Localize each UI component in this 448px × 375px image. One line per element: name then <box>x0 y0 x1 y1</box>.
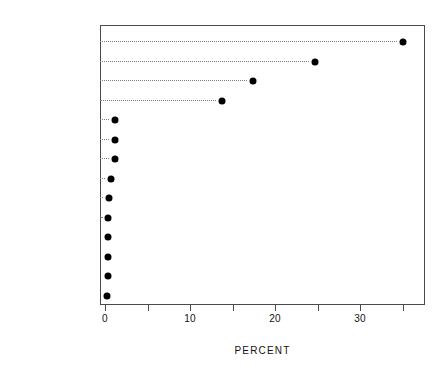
x-tick-label-0: 0 <box>102 313 108 324</box>
leader-line <box>100 119 109 121</box>
data-point-marker <box>104 253 111 260</box>
data-point-marker <box>105 214 112 221</box>
leader-line <box>100 217 102 219</box>
x-tick-label-30: 30 <box>354 313 366 324</box>
x-tick-major-0 <box>105 305 106 311</box>
leader-line <box>100 61 309 63</box>
leader-line <box>100 80 247 82</box>
x-tick-major-30 <box>360 305 361 311</box>
leader-line <box>100 158 109 160</box>
x-tick-label-20: 20 <box>269 313 281 324</box>
data-point-marker <box>104 292 111 299</box>
leader-line <box>100 100 216 102</box>
x-tick-minor-15 <box>233 305 234 311</box>
chart-figure: OXYGENIRONSILICONMAGNESIUMALUMINUMNICKEL… <box>0 0 448 375</box>
data-point-marker <box>219 97 226 104</box>
x-tick-label-10: 10 <box>184 313 196 324</box>
data-point-marker <box>112 136 119 143</box>
leader-line <box>100 178 105 180</box>
data-point-marker <box>112 156 119 163</box>
data-point-marker <box>105 195 112 202</box>
x-tick-major-20 <box>275 305 276 311</box>
leader-line <box>100 197 103 199</box>
x-axis-title: PERCENT <box>100 345 425 356</box>
data-point-marker <box>400 39 407 46</box>
x-tick-minor-25 <box>318 305 319 311</box>
x-tick-minor-5 <box>148 305 149 311</box>
data-point-marker <box>104 234 111 241</box>
data-point-marker <box>104 273 111 280</box>
data-point-marker <box>112 117 119 124</box>
data-point-marker <box>249 78 256 85</box>
data-point-marker <box>107 175 114 182</box>
x-axis-title-text: PERCENT <box>234 345 290 356</box>
x-tick-major-10 <box>190 305 191 311</box>
leader-line <box>100 139 109 141</box>
data-point-marker <box>311 58 318 65</box>
plot-area <box>100 25 425 305</box>
leader-line <box>100 41 397 43</box>
x-tick-minor-35 <box>403 305 404 311</box>
